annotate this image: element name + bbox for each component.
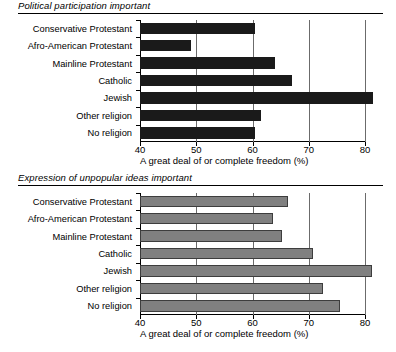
category-label-conservative-protestant: Conservative Protestant — [33, 197, 132, 207]
bar-row — [140, 55, 365, 72]
x-tick-label-50: 50 — [191, 144, 202, 155]
bar-row — [140, 37, 365, 54]
category-tick-mark — [136, 20, 140, 21]
category-label-no-religion: No religion — [88, 301, 132, 311]
bar-conservative-protestant — [140, 196, 288, 207]
x-axis-title-top: A great deal of or complete freedom (%) — [140, 155, 390, 166]
bar-row — [140, 125, 365, 142]
category-tick-mark — [136, 37, 140, 38]
bar-mainline-protestant — [140, 230, 282, 241]
bar-no-religion — [140, 300, 340, 311]
category-tick-mark — [136, 245, 140, 246]
bar-afro-american-protestant — [140, 213, 273, 224]
bar-row — [140, 228, 365, 245]
category-label-jewish: Jewish — [104, 266, 132, 276]
bar-jewish — [140, 265, 372, 276]
category-tick-mark — [136, 72, 140, 73]
panel-title-row: Expression of unpopular ideas important — [0, 172, 396, 187]
category-tick-mark — [136, 193, 140, 194]
bar-conservative-protestant — [140, 23, 255, 34]
bar-rows — [140, 20, 365, 142]
bar-row — [140, 107, 365, 124]
category-tick-mark — [136, 210, 140, 211]
x-tick-label-60: 60 — [247, 317, 258, 328]
gridline-80 — [365, 20, 366, 142]
category-label-jewish: Jewish — [104, 93, 132, 103]
bar-row — [140, 20, 365, 37]
bar-row — [140, 245, 365, 262]
title-underline-rule — [18, 185, 383, 186]
category-label-mainline-protestant: Mainline Protestant — [52, 59, 132, 69]
category-tick-mark — [136, 125, 140, 126]
x-tick-label-50: 50 — [191, 317, 202, 328]
bar-rows — [140, 193, 365, 315]
category-tick-mark — [136, 107, 140, 108]
bar-row — [140, 298, 365, 315]
bar-jewish — [140, 92, 373, 103]
category-axis-labels-bottom: Conservative ProtestantAfro-American Pro… — [0, 193, 136, 315]
panel-title: Expression of unpopular ideas important — [18, 172, 192, 183]
x-tick-label-80: 80 — [360, 144, 371, 155]
category-label-other-religion: Other religion — [76, 111, 132, 121]
bar-other-religion — [140, 283, 323, 294]
category-tick-mark — [136, 263, 140, 264]
category-tick-mark — [136, 280, 140, 281]
category-tick-mark — [136, 90, 140, 91]
category-tick-mark — [136, 298, 140, 299]
x-tick-label-40: 40 — [135, 144, 146, 155]
x-tick-label-60: 60 — [247, 144, 258, 155]
panel-title-row: Political participation important — [0, 0, 396, 15]
category-label-no-religion: No religion — [88, 128, 132, 138]
category-label-other-religion: Other religion — [76, 284, 132, 294]
bar-catholic — [140, 248, 313, 259]
x-tick-label-70: 70 — [303, 144, 314, 155]
bar-row — [140, 263, 365, 280]
plot-area-bottom — [140, 193, 365, 315]
bar-catholic — [140, 75, 292, 86]
category-label-afro-american-protestant: Afro-American Protestant — [28, 41, 132, 51]
x-axis-title-bottom: A great deal of or complete freedom (%) — [140, 328, 390, 339]
bar-row — [140, 280, 365, 297]
gridline-80 — [365, 193, 366, 315]
category-label-afro-american-protestant: Afro-American Protestant — [28, 214, 132, 224]
bar-row — [140, 193, 365, 210]
bar-no-religion — [140, 127, 255, 138]
figure-two-panel-bar-charts: Political participation important Conser… — [0, 0, 396, 352]
category-label-conservative-protestant: Conservative Protestant — [33, 24, 132, 34]
category-label-mainline-protestant: Mainline Protestant — [52, 232, 132, 242]
category-tick-mark — [136, 55, 140, 56]
bar-mainline-protestant — [140, 57, 275, 68]
panel-title: Political participation important — [18, 0, 150, 11]
bar-row — [140, 90, 365, 107]
plot-area-top — [140, 20, 365, 142]
x-tick-label-70: 70 — [303, 317, 314, 328]
x-tick-label-80: 80 — [360, 317, 371, 328]
category-tick-mark — [136, 228, 140, 229]
category-axis-labels-top: Conservative ProtestantAfro-American Pro… — [0, 20, 136, 142]
title-underline-rule — [18, 13, 383, 14]
bar-row — [140, 72, 365, 89]
bar-other-religion — [140, 110, 261, 121]
bar-afro-american-protestant — [140, 40, 191, 51]
bar-row — [140, 210, 365, 227]
x-tick-label-40: 40 — [135, 317, 146, 328]
category-label-catholic: Catholic — [98, 76, 132, 86]
category-label-catholic: Catholic — [98, 249, 132, 259]
